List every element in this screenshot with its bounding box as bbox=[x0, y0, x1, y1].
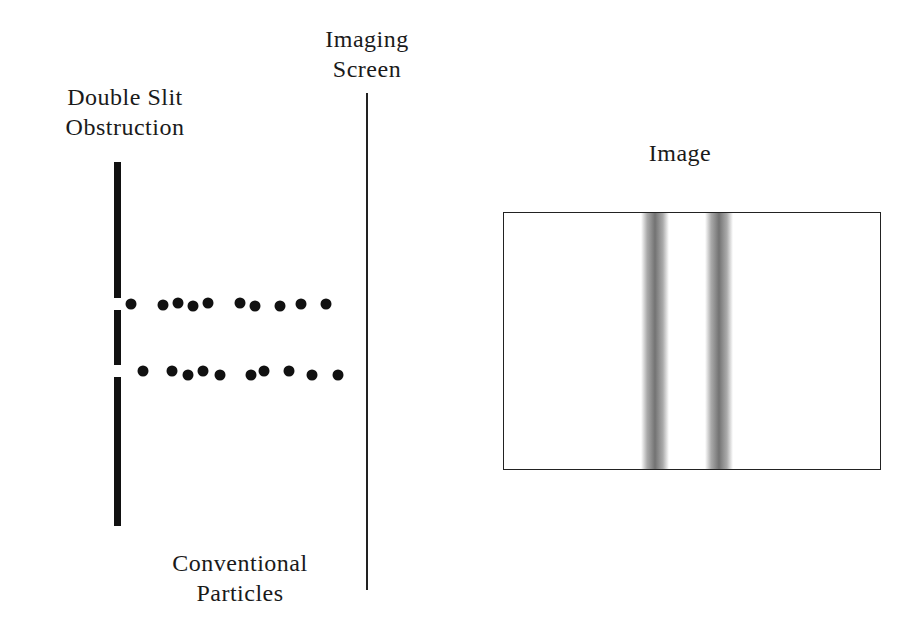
interference-band bbox=[641, 213, 669, 469]
label-line: Image bbox=[600, 138, 760, 168]
interference-band bbox=[705, 213, 733, 469]
particle-dot bbox=[138, 366, 149, 377]
particle-dot bbox=[167, 366, 178, 377]
particle-dot bbox=[246, 370, 257, 381]
particle-dot bbox=[333, 370, 344, 381]
particle-dot bbox=[215, 370, 226, 381]
particle-dot bbox=[173, 298, 184, 309]
particle-dot bbox=[183, 370, 194, 381]
particle-dot bbox=[203, 298, 214, 309]
conventional-particles-label: Conventional Particles bbox=[140, 548, 340, 608]
barrier-segment bbox=[114, 162, 121, 298]
particle-dot bbox=[188, 301, 199, 312]
particle-dot bbox=[250, 301, 261, 312]
particle-dot bbox=[198, 366, 209, 377]
image-panel bbox=[503, 212, 881, 470]
label-line: Screen bbox=[302, 54, 432, 84]
double-slit-obstruction-label: Double Slit Obstruction bbox=[40, 82, 210, 142]
particle-dot bbox=[296, 299, 307, 310]
label-line: Imaging bbox=[302, 24, 432, 54]
particle-dot bbox=[126, 299, 137, 310]
particle-dot bbox=[259, 366, 270, 377]
imaging-screen-line bbox=[366, 93, 368, 590]
label-line: Obstruction bbox=[40, 112, 210, 142]
particle-dot bbox=[158, 300, 169, 311]
label-line: Particles bbox=[140, 578, 340, 608]
particle-dot bbox=[275, 301, 286, 312]
barrier-segment bbox=[114, 310, 121, 365]
particle-dot bbox=[321, 299, 332, 310]
label-line: Conventional bbox=[140, 548, 340, 578]
particle-dot bbox=[284, 366, 295, 377]
image-label: Image bbox=[600, 138, 760, 168]
label-line: Double Slit bbox=[40, 82, 210, 112]
particle-dot bbox=[235, 298, 246, 309]
imaging-screen-label: Imaging Screen bbox=[302, 24, 432, 84]
barrier-segment bbox=[114, 377, 121, 526]
particle-dot bbox=[307, 370, 318, 381]
